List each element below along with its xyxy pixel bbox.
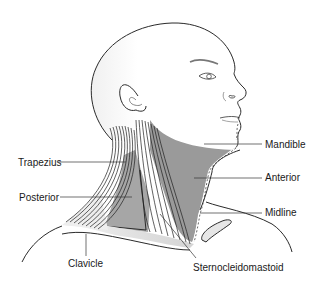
- label-anterior: Anterior: [265, 172, 300, 183]
- right-clavicle: [202, 220, 232, 242]
- label-sternocleidomastoid: Sternocleidomastoid: [193, 262, 284, 273]
- label-midline: Midline: [265, 207, 297, 218]
- label-trapezius: Trapezius: [18, 157, 62, 168]
- label-mandible: Mandible: [265, 139, 306, 150]
- left-shoulder-outline: [22, 226, 62, 262]
- label-clavicle: Clavicle: [68, 258, 103, 269]
- label-posterior: Posterior: [19, 192, 59, 203]
